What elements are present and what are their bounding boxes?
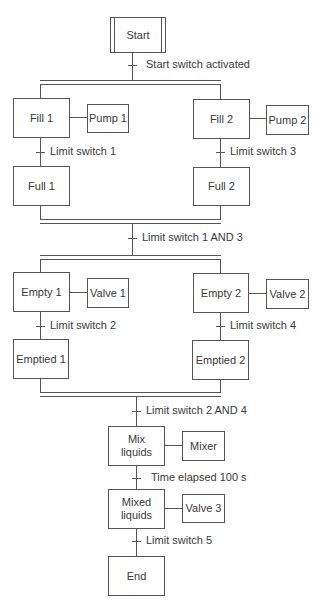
step-fill2: Fill 2 — [193, 99, 250, 139]
parallel-convergence — [40, 223, 221, 224]
parallel-divergence — [40, 259, 221, 260]
action-link — [250, 118, 266, 119]
step-label: liquids — [121, 509, 152, 522]
step-start: Start — [110, 17, 166, 53]
step-label: Empty 1 — [21, 286, 61, 299]
step-empty1: Empty 1 — [13, 272, 70, 312]
step-label: Full 2 — [208, 180, 235, 193]
action-pump2: Pump 2 — [266, 105, 309, 135]
action-label: Pump 2 — [269, 114, 307, 127]
step-mix-liquids: Mix liquids — [108, 426, 165, 466]
transition-label: Limit switch 5 — [146, 534, 212, 546]
action-link — [165, 445, 182, 446]
step-emptied1: Emptied 1 — [13, 339, 69, 379]
connector — [220, 259, 221, 273]
step-full1: Full 1 — [13, 166, 70, 206]
step-label: Fill 1 — [30, 112, 53, 125]
connector — [220, 380, 221, 392]
step-end: End — [108, 556, 165, 596]
connector — [220, 139, 221, 167]
action-label: Pump 1 — [89, 112, 127, 125]
transition-bar — [132, 411, 141, 412]
step-label: Full 1 — [28, 180, 55, 193]
action-valve3: Valve 3 — [182, 494, 225, 523]
step-label: Empty 2 — [201, 287, 241, 300]
parallel-convergence — [40, 392, 221, 393]
step-label: Mixed — [122, 496, 151, 509]
transition-label: Limit switch 1 AND 3 — [142, 231, 243, 243]
step-full2: Full 2 — [193, 167, 250, 206]
action-label: Valve 1 — [90, 287, 126, 300]
connector — [136, 529, 137, 556]
transition-bar — [128, 238, 137, 239]
step-label: End — [127, 570, 147, 583]
transition-bar — [132, 478, 141, 479]
connector — [40, 379, 41, 392]
action-label: Valve 3 — [186, 502, 222, 515]
action-link — [70, 292, 87, 293]
step-mixed-liquids: Mixed liquids — [108, 489, 165, 529]
parallel-divergence — [40, 255, 221, 256]
action-pump1: Pump 1 — [87, 104, 129, 133]
transition-label: Limit switch 2 — [50, 319, 116, 331]
transition-label: Time elapsed 100 s — [151, 471, 247, 483]
parallel-divergence — [40, 80, 221, 81]
transition-bar — [128, 65, 137, 66]
connector — [132, 53, 133, 80]
connector — [40, 206, 41, 219]
action-label: Valve 2 — [270, 288, 306, 301]
transition-bar — [216, 326, 225, 327]
action-link — [70, 117, 87, 118]
step-label: Fill 2 — [210, 113, 233, 126]
action-valve2: Valve 2 — [266, 279, 309, 309]
connector — [40, 259, 41, 272]
connector — [220, 206, 221, 219]
action-mixer: Mixer — [182, 431, 225, 461]
transition-label: Limit switch 2 AND 4 — [146, 404, 247, 416]
step-emptied2: Emptied 2 — [192, 340, 249, 380]
transition-bar — [216, 152, 225, 153]
action-valve1: Valve 1 — [87, 278, 129, 308]
step-label: Mix — [128, 433, 145, 446]
parallel-convergence — [40, 219, 221, 220]
transition-bar — [36, 326, 45, 327]
action-link — [249, 293, 266, 294]
transition-bar — [36, 152, 45, 153]
step-empty2: Empty 2 — [193, 273, 249, 313]
step-fill1: Fill 1 — [13, 98, 70, 138]
transition-label: Limit switch 1 — [50, 145, 116, 157]
parallel-divergence — [40, 84, 221, 85]
transition-label: Limit switch 4 — [230, 319, 296, 331]
action-label: Mixer — [190, 440, 217, 453]
transition-bar — [132, 541, 141, 542]
connector — [40, 84, 41, 98]
action-link — [165, 508, 182, 509]
step-label: Emptied 2 — [196, 354, 246, 367]
step-label: liquids — [121, 446, 152, 459]
step-label: Start — [126, 29, 149, 42]
connector — [220, 84, 221, 99]
connector — [132, 223, 133, 255]
parallel-convergence — [40, 396, 221, 397]
step-label: Emptied 1 — [16, 353, 66, 366]
transition-label: Limit switch 3 — [230, 145, 296, 157]
transition-label: Start switch activated — [146, 58, 250, 70]
